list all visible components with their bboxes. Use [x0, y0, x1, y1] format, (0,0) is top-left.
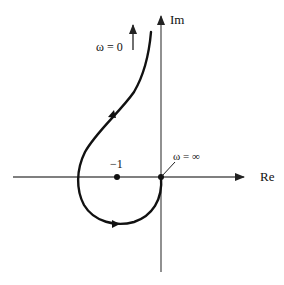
real-axis-label: Re — [260, 169, 275, 184]
critical-point-marker — [114, 174, 120, 180]
omega-zero-label: ω = 0 — [96, 40, 123, 54]
nyquist-curve — [78, 32, 161, 224]
critical-point-label: −1 — [110, 157, 123, 171]
omega-inf-leader-line — [162, 162, 175, 176]
nyquist-diagram: Im Re ω = 0 ω = ∞ −1 — [0, 0, 284, 285]
direction-arrow-upper-icon — [108, 110, 116, 118]
omega-inf-label: ω = ∞ — [173, 150, 200, 162]
direction-arrow-lower-icon — [112, 220, 120, 228]
imag-axis-label: Im — [170, 12, 184, 27]
